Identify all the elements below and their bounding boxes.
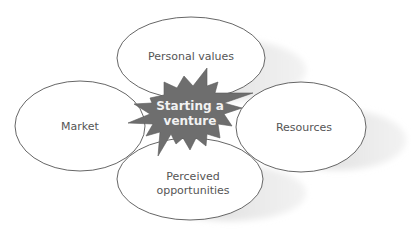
market-label: Market	[61, 120, 99, 133]
venture-diagram: Market Resources Personal values Perceiv…	[0, 0, 411, 231]
perceived-opportunities-label-line2: opportunities	[156, 184, 229, 197]
resources-label: Resources	[276, 121, 332, 134]
personal-values-label: Personal values	[148, 50, 234, 63]
node-resources: Resources	[236, 82, 366, 172]
hub-label-line1: Starting a	[156, 99, 224, 113]
diagram-canvas: Market Resources Personal values Perceiv…	[0, 0, 411, 231]
hub-label-line2: venture	[164, 114, 217, 128]
perceived-opportunities-label-line1: Perceived	[166, 170, 219, 183]
node-market: Market	[15, 81, 145, 171]
